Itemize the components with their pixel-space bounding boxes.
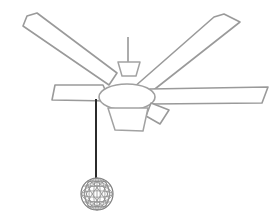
light-kit-icon — [108, 108, 148, 131]
blade-right-horizontal — [150, 87, 268, 104]
motor-hub-icon — [99, 84, 155, 110]
ceiling-fan-illustration — [0, 0, 274, 224]
artwork-canvas — [0, 0, 274, 224]
pull-chain-orb-icon — [81, 177, 113, 212]
motor-canopy-icon — [118, 62, 140, 76]
